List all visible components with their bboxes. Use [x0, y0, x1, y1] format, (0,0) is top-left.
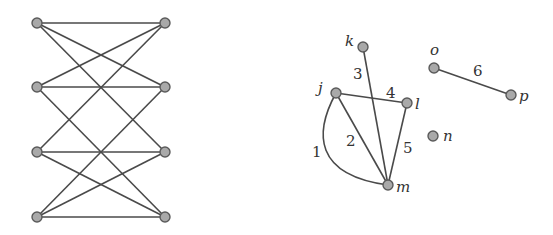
node-o — [429, 63, 439, 73]
node-j — [331, 88, 341, 98]
node-k — [358, 42, 368, 52]
node-l — [402, 98, 412, 108]
node-R1 — [160, 18, 170, 28]
edge-label-6: 6 — [473, 62, 483, 80]
edge-label-5: 5 — [403, 139, 413, 157]
edge-label-3: 3 — [353, 65, 363, 83]
node-L2 — [32, 82, 42, 92]
node-label-p: p — [519, 87, 529, 105]
graph-canvas: 123456kjlmnop — [0, 0, 553, 235]
node-label-m: m — [396, 178, 410, 196]
node-label-k: k — [345, 32, 354, 50]
edge-j-m-curved — [323, 93, 388, 185]
node-R3 — [160, 147, 170, 157]
node-L3 — [32, 147, 42, 157]
node-label-o: o — [430, 41, 439, 59]
node-m — [383, 180, 393, 190]
node-L1 — [32, 18, 42, 28]
node-p — [506, 90, 516, 100]
edge-label-2: 2 — [346, 132, 356, 150]
edge-label-4: 4 — [386, 84, 396, 102]
node-R2 — [160, 82, 170, 92]
node-label-j: j — [315, 79, 323, 97]
edge-label-1: 1 — [312, 143, 322, 161]
node-label-l: l — [415, 95, 420, 113]
node-label-n: n — [443, 127, 453, 145]
node-R4 — [160, 212, 170, 222]
node-n — [428, 131, 438, 141]
node-L4 — [32, 212, 42, 222]
